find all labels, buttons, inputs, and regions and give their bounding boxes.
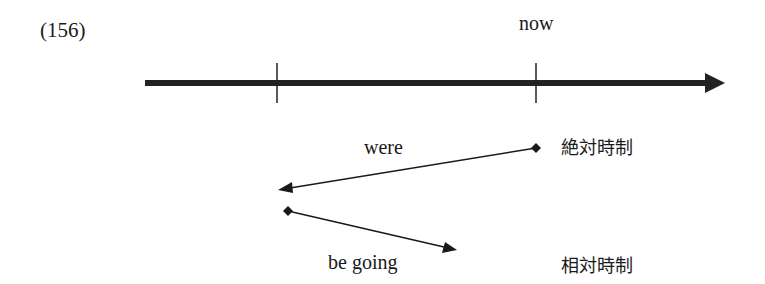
be-going-arrow [283, 206, 457, 253]
time-axis [145, 73, 725, 93]
diamond-icon [531, 143, 541, 153]
timeline-diagram [0, 0, 765, 284]
arrowhead-icon [278, 182, 293, 193]
arrowhead-icon [442, 242, 457, 253]
axis-arrowhead-icon [705, 73, 725, 93]
diamond-icon [283, 206, 293, 216]
were-arrow [278, 143, 541, 193]
